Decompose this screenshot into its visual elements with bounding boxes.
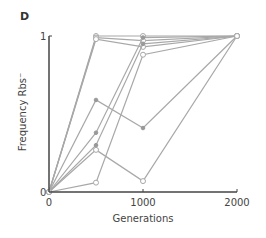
data-point-marker xyxy=(141,126,145,130)
series-line-6 xyxy=(49,36,237,192)
series-line-7 xyxy=(49,36,237,192)
data-point-marker xyxy=(94,131,98,135)
data-point-marker xyxy=(141,52,146,57)
x-axis-title: Generations xyxy=(113,213,174,224)
line-chart: 1 0 0 1000 2000 Generations Frequency Rb… xyxy=(0,0,266,238)
data-point-marker xyxy=(141,179,146,184)
x-tick-label-2000: 2000 xyxy=(224,197,249,208)
data-point-marker xyxy=(141,36,145,40)
series-line-1 xyxy=(49,36,237,192)
data-point-marker xyxy=(235,34,240,39)
data-point-marker xyxy=(141,42,145,46)
series-line-4 xyxy=(49,36,237,192)
data-point-marker xyxy=(94,147,99,152)
axes xyxy=(49,36,237,192)
series-line-3 xyxy=(49,36,237,192)
data-point-marker xyxy=(94,98,98,102)
data-point-marker xyxy=(94,37,99,42)
x-tick-label-0: 0 xyxy=(46,197,52,208)
x-tick-label-1000: 1000 xyxy=(130,197,155,208)
series-line-8 xyxy=(49,36,237,192)
data-point-marker xyxy=(94,143,98,147)
series-line-5 xyxy=(49,36,237,192)
y-tick-label-1: 1 xyxy=(40,31,46,42)
series-lines xyxy=(47,34,240,195)
y-axis-title: Frequency Rbs⁻ xyxy=(17,73,28,152)
data-point-marker xyxy=(94,180,99,185)
series-line-2 xyxy=(49,36,237,192)
